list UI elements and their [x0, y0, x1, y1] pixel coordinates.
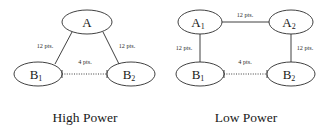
- two-panel-graph-figure: A B1 B2 12 pts. 12 pts. 4 pts. A1 A2: [0, 0, 326, 134]
- edge-label-a2-b2: 12 pts.: [297, 44, 314, 51]
- panel-high-power: A B1 B2 12 pts. 12 pts. 4 pts.: [14, 10, 155, 86]
- caption-low-power: Low Power: [215, 110, 278, 125]
- figure-container: A B1 B2 12 pts. 12 pts. 4 pts. A1 A2: [0, 0, 326, 134]
- edge-label-b1-b2-low: 4 pts.: [238, 58, 252, 65]
- edge-label-a-b2: 12 pts.: [119, 42, 136, 49]
- edge-a-b2: [103, 32, 119, 64]
- edge-label-b1-a: 12 pts.: [37, 42, 54, 49]
- panel-low-power: A1 A2 B1 B2 12 pts. 12 pts. 12 pts. 4 pt…: [176, 10, 315, 86]
- edge-label-b1-b2: 4 pts.: [78, 58, 92, 65]
- edge-label-a1-b1: 12 pts.: [176, 44, 193, 51]
- caption-high-power: High Power: [53, 110, 118, 125]
- edge-b1-a: [55, 32, 72, 64]
- node-a-label: A: [82, 15, 92, 30]
- edge-label-a1-a2: 12 pts.: [237, 11, 254, 18]
